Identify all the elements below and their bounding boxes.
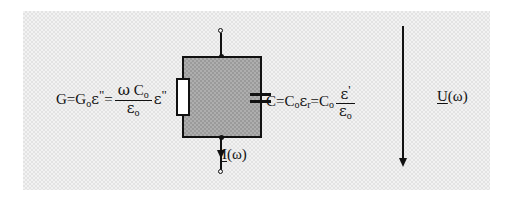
eps0-sub: o bbox=[347, 110, 352, 121]
eps0-symbol: ε bbox=[127, 99, 135, 117]
fraction-denominator: εo bbox=[336, 103, 355, 121]
eps-prime-over-eps0-fraction: ε' εo bbox=[336, 83, 355, 122]
capacitance-c: C bbox=[134, 82, 144, 98]
capacitance-lead: C=C bbox=[266, 93, 294, 109]
voltage-argument: (ω) bbox=[448, 88, 468, 104]
conductance-lhs: G=G bbox=[56, 91, 86, 107]
bottom-terminal-node bbox=[218, 169, 223, 174]
fraction-denominator: εo bbox=[115, 100, 152, 118]
capacitance-equation: C=Coεr=Co ε' εo bbox=[266, 83, 357, 122]
dielectric-sample-box bbox=[182, 56, 262, 138]
eps0-sub: o bbox=[135, 107, 140, 118]
capacitance-equals-sub: o bbox=[329, 99, 334, 110]
current-argument: (ω) bbox=[227, 146, 247, 162]
current-phasor-label: I(ω) bbox=[222, 146, 247, 163]
capacitance-equals: =C bbox=[311, 93, 329, 109]
trailing-double-prime: " bbox=[161, 87, 166, 102]
top-terminal-node bbox=[218, 28, 223, 33]
circuit-diagram-figure: G=Goε"= ω Co εo ε" C=Coεr=Co ε' εo I(ω) … bbox=[0, 0, 507, 212]
omega-symbol: ω bbox=[118, 81, 130, 99]
voltage-symbol: U bbox=[437, 88, 448, 104]
conductance-equals: = bbox=[104, 91, 112, 107]
omega-c0-over-eps0-fraction: ω Co εo bbox=[115, 83, 152, 119]
voltage-arrow-shaft bbox=[402, 26, 404, 163]
eps0-symbol: ε bbox=[339, 102, 347, 120]
voltage-phasor-label: U(ω) bbox=[437, 88, 468, 105]
eps-prime-mark: ' bbox=[348, 82, 350, 97]
conductance-lhs-epsilon: ε bbox=[91, 90, 99, 108]
fraction-numerator: ε' bbox=[336, 83, 355, 103]
voltage-direction-arrow bbox=[399, 158, 407, 167]
fraction-numerator: ω Co bbox=[115, 83, 152, 100]
resistor-element bbox=[176, 78, 190, 116]
conductance-equation: G=Goε"= ω Co εo ε" bbox=[56, 83, 167, 119]
capacitance-c-sub: o bbox=[144, 89, 149, 100]
